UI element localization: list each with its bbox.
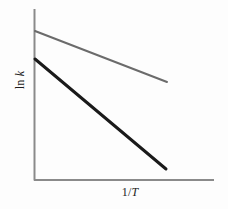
y-axis-label-variable: k <box>13 71 27 77</box>
arrhenius-plot-figure: ln k 1/T <box>0 0 228 209</box>
x-axis-label-variable: T <box>131 185 138 199</box>
data-line-uncatalyzed <box>35 59 166 169</box>
x-axis-label: 1/T <box>100 186 160 198</box>
plot-canvas <box>0 0 228 209</box>
y-axis-label: ln k <box>14 60 26 100</box>
